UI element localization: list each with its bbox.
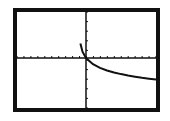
graph-plot [0, 0, 170, 121]
function-curve [80, 44, 156, 80]
